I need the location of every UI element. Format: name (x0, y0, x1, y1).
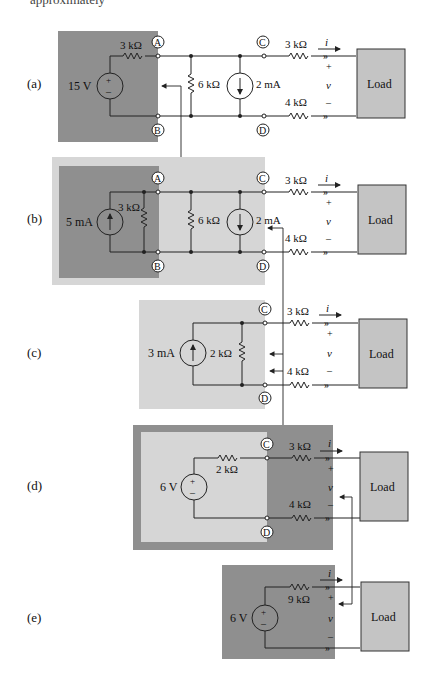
svg-text:+: + (106, 75, 111, 85)
svg-text:3 kΩ: 3 kΩ (118, 201, 140, 213)
svg-text:–: – (105, 86, 112, 97)
svg-text:3 mA: 3 mA (148, 346, 175, 360)
svg-text:i: i (328, 567, 331, 579)
svg-text:D: D (259, 261, 266, 272)
svg-text:4 kΩ: 4 kΩ (285, 232, 307, 244)
svg-text:4 kΩ: 4 kΩ (285, 96, 307, 108)
svg-text:+: + (261, 607, 266, 617)
svg-text:»: » (323, 186, 328, 197)
svg-text:»: » (323, 50, 328, 61)
svg-text:–: – (327, 631, 334, 642)
svg-text:–: – (325, 233, 332, 244)
svg-text:C: C (261, 304, 268, 315)
node-c: C (259, 37, 266, 48)
panel-a: (a) + – 15 V 3 kΩ A B 6 kΩ 2 (27, 31, 405, 142)
svg-text:»: » (323, 246, 328, 257)
svg-text:+: + (326, 61, 332, 72)
svg-text:6 kΩ: 6 kΩ (198, 214, 220, 226)
svg-text:D: D (263, 527, 270, 538)
svg-text:i: i (325, 172, 328, 184)
node-a: A (154, 37, 162, 48)
svg-text:–: – (327, 499, 334, 510)
svg-text:D: D (261, 393, 268, 404)
svg-text:2 kΩ: 2 kΩ (210, 347, 232, 359)
svg-text:C: C (263, 439, 270, 450)
svg-text:–: – (260, 618, 267, 629)
panel-b: (b) 5 mA 3 kΩ A B 6 kΩ 2 mA C D (27, 157, 406, 285)
svg-text:»: » (325, 581, 330, 592)
svg-text:»: » (325, 452, 330, 463)
svg-text:–: – (326, 365, 333, 376)
svg-text:+: + (190, 476, 195, 486)
svg-text:Load: Load (370, 480, 395, 494)
panel-c: (c) 3 mA 2 kΩ C D 3 kΩ 4 kΩ » » i + v – (27, 300, 407, 409)
svg-text:»: » (325, 512, 330, 523)
svg-text:3 kΩ: 3 kΩ (289, 440, 311, 452)
svg-text:v: v (328, 481, 333, 493)
svg-text:»: » (324, 379, 329, 390)
svg-text:»: » (323, 110, 328, 121)
panel-d: (d) + – 6 V 2 kΩ C D 3 kΩ 4 kΩ » » i + v… (27, 425, 408, 550)
svg-text:Load: Load (368, 213, 393, 227)
svg-text:(d): (d) (27, 478, 42, 493)
svg-text:»: » (325, 642, 330, 653)
svg-text:v: v (328, 612, 333, 624)
svg-text:(c): (c) (27, 345, 41, 360)
svg-text:3 kΩ: 3 kΩ (120, 39, 142, 51)
node-b: B (154, 125, 161, 136)
svg-text:i: i (326, 302, 329, 314)
svg-text:A: A (154, 173, 162, 184)
svg-text:+: + (328, 463, 334, 474)
svg-text:Load: Load (371, 610, 396, 624)
circuit-figure: (a) + – 15 V 3 kΩ A B 6 kΩ 2 (0, 0, 433, 681)
svg-text:C: C (259, 173, 266, 184)
resistor-icon (188, 74, 194, 93)
panel-label: (a) (27, 76, 41, 91)
svg-text:–: – (325, 97, 332, 108)
svg-text:v: v (326, 79, 331, 91)
svg-text:Load: Load (367, 77, 392, 91)
svg-text:2 kΩ: 2 kΩ (216, 463, 238, 475)
svg-text:3 kΩ: 3 kΩ (287, 305, 309, 317)
svg-text:9 kΩ: 9 kΩ (288, 593, 310, 605)
svg-text:–: – (189, 487, 196, 498)
panel-label: (b) (27, 211, 42, 226)
svg-text:4 kΩ: 4 kΩ (289, 498, 311, 510)
svg-text:+: + (326, 197, 332, 208)
svg-text:Load: Load (369, 347, 394, 361)
svg-text:i: i (325, 36, 328, 48)
svg-text:3 kΩ: 3 kΩ (285, 174, 307, 186)
svg-text:6 V: 6 V (160, 480, 178, 494)
source-value: 15 V (68, 79, 92, 93)
svg-text:6 kΩ: 6 kΩ (198, 78, 220, 90)
svg-text:(e): (e) (27, 610, 41, 625)
svg-text:+: + (327, 328, 333, 339)
svg-text:»: » (324, 317, 329, 328)
svg-text:+: + (328, 592, 334, 603)
svg-text:4 kΩ: 4 kΩ (287, 365, 309, 377)
svg-text:2 mA: 2 mA (256, 214, 281, 226)
svg-text:3 kΩ: 3 kΩ (285, 38, 307, 50)
svg-text:v: v (326, 215, 331, 227)
svg-text:2 mA: 2 mA (256, 78, 281, 90)
svg-text:v: v (327, 347, 332, 359)
svg-text:B: B (154, 261, 161, 272)
svg-text:i: i (328, 437, 331, 449)
svg-text:6 V: 6 V (230, 611, 248, 625)
node-d: D (259, 125, 266, 136)
svg-text:5 mA: 5 mA (66, 215, 93, 229)
